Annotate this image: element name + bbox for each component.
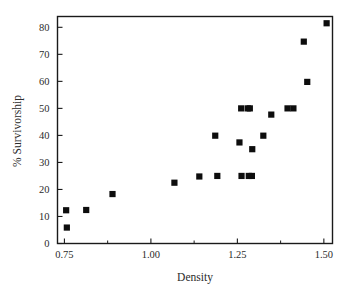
y-tick-label-7: 70 xyxy=(39,49,50,60)
data-point-4 xyxy=(171,180,177,186)
data-point-1 xyxy=(64,224,70,230)
x-axis-title: Density xyxy=(177,271,213,284)
y-tick-label-8: 80 xyxy=(39,22,50,33)
data-point-13 xyxy=(247,105,253,111)
data-point-18 xyxy=(284,105,290,111)
data-point-5 xyxy=(196,173,202,179)
data-point-9 xyxy=(238,105,244,111)
data-point-16 xyxy=(260,133,266,139)
y-tick-label-2: 20 xyxy=(39,184,50,195)
y-tick-label-5: 50 xyxy=(39,103,50,114)
y-axis-title: % Survivorship xyxy=(11,95,24,167)
data-point-14 xyxy=(249,173,255,179)
data-point-19 xyxy=(290,105,296,111)
data-point-17 xyxy=(268,112,274,118)
y-tick-label-4: 40 xyxy=(39,130,50,141)
scatter-plot-figure: 0.751.001.251.50 01020304050607080 Densi… xyxy=(0,0,353,289)
data-point-15 xyxy=(249,146,255,152)
plot-canvas: 0.751.001.251.50 01020304050607080 Densi… xyxy=(0,0,353,289)
data-point-20 xyxy=(304,79,310,85)
data-point-22 xyxy=(324,20,330,26)
x-tick-label-0: 0.75 xyxy=(55,249,73,260)
y-tick-label-0: 0 xyxy=(44,238,49,249)
data-point-0 xyxy=(63,207,69,213)
x-tick-label-3: 1.50 xyxy=(315,249,333,260)
figure-background xyxy=(0,0,353,289)
y-axis-tick-labels: 01020304050607080 xyxy=(39,22,50,249)
y-tick-label-1: 10 xyxy=(39,211,50,222)
data-point-8 xyxy=(236,139,242,145)
data-point-6 xyxy=(212,133,218,139)
y-tick-label-3: 30 xyxy=(39,157,50,168)
data-point-3 xyxy=(109,191,115,197)
data-point-21 xyxy=(301,39,307,45)
y-tick-label-6: 60 xyxy=(39,76,50,87)
data-point-10 xyxy=(238,173,244,179)
x-tick-label-1: 1.00 xyxy=(142,249,160,260)
data-point-7 xyxy=(214,173,220,179)
x-tick-label-2: 1.25 xyxy=(228,249,246,260)
data-point-2 xyxy=(83,207,89,213)
